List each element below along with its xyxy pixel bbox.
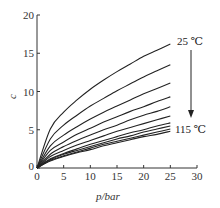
- x-tick-label: 25: [165, 170, 177, 182]
- y-tick-label: 10: [23, 86, 35, 98]
- temperature-direction-arrow-icon: [188, 50, 194, 118]
- x-tick-label: 10: [85, 170, 97, 182]
- curve-95: [37, 126, 170, 168]
- y-tick-label: 20: [23, 9, 35, 21]
- y-axis-label: c: [6, 94, 18, 99]
- tick-labels: 05101520253005101520: [23, 9, 203, 182]
- y-tick-label: 5: [29, 124, 35, 136]
- bottom-temperature-annotation: 115 ℃: [175, 123, 206, 135]
- y-tick-label: 15: [23, 47, 35, 59]
- x-tick-label: 20: [138, 170, 150, 182]
- axes: [37, 15, 197, 168]
- chart: 05101520253005101520 c p/bar 25 ℃ 115 ℃: [0, 0, 220, 208]
- curves: [37, 44, 170, 168]
- top-temperature-annotation: 25 ℃: [177, 35, 203, 47]
- x-tick-label: 30: [192, 170, 204, 182]
- x-axis-label: p/bar: [95, 190, 121, 202]
- x-tick-label: 5: [61, 170, 67, 182]
- y-tick-label: 0: [29, 160, 35, 172]
- curve-75: [37, 116, 170, 168]
- curve-105: [37, 129, 170, 168]
- x-tick-label: 0: [34, 170, 40, 182]
- curve-45: [37, 83, 170, 168]
- x-tick-label: 15: [112, 170, 124, 182]
